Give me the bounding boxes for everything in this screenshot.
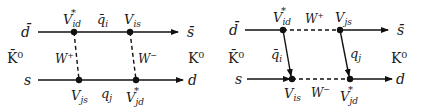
box-diagram-2: d̄ s̄ s d K̄⁰ K⁰ Vid* Vjs Vis Vjd* q̄i q… xyxy=(228,5,407,106)
quark-label: d̄ xyxy=(21,23,32,40)
propagator-label: qj xyxy=(350,46,361,63)
meson-label: K⁰ xyxy=(188,50,204,66)
quark-label: d̄ xyxy=(229,21,240,38)
ckm-label: Vjd* xyxy=(126,85,144,107)
ckm-label: Vjd* xyxy=(340,84,358,106)
vertex-dot xyxy=(71,29,77,35)
vertex-dot xyxy=(337,27,343,33)
boson-label: W+ xyxy=(55,51,74,66)
ckm-label: Vjs xyxy=(335,10,352,27)
w-plus-dashed-line xyxy=(74,32,79,80)
quark-label: s̄ xyxy=(397,22,405,38)
vertex-dot xyxy=(347,76,353,82)
ckm-label: Vid* xyxy=(273,5,291,27)
box-diagram-1: d̄ s̄ s d K̄⁰ K⁰ Vid* Vis Vjs Vjd* q̄i q… xyxy=(7,7,204,107)
ckm-label: Vid* xyxy=(63,7,81,29)
quark-label: d xyxy=(188,72,197,88)
box-diagrams-canvas: d̄ s̄ s d K̄⁰ K⁰ Vid* Vis Vjs Vjd* q̄i q… xyxy=(0,0,421,111)
propagator-label: q̄i xyxy=(97,12,108,29)
ckm-label: Vis xyxy=(284,86,301,103)
boson-label: W− xyxy=(138,51,157,66)
propagator-label: q̄i xyxy=(271,47,282,64)
w-minus-dashed-line xyxy=(130,32,136,80)
quark-label: s̄ xyxy=(187,24,195,40)
ckm-label: Vjs xyxy=(71,88,88,105)
vertex-dot xyxy=(133,77,139,83)
quark-label: s xyxy=(235,71,242,87)
quark-propagator-line xyxy=(340,30,349,76)
vertex-dot xyxy=(127,29,133,35)
quark-label: d xyxy=(396,71,405,87)
meson-label: K̄⁰ xyxy=(228,49,244,66)
vertex-dot xyxy=(76,77,82,83)
vertex-dot xyxy=(280,27,286,33)
boson-label: W− xyxy=(311,85,330,100)
antiquark-propagator-line xyxy=(283,30,291,76)
propagator-label: qj xyxy=(101,86,112,103)
meson-label: K⁰ xyxy=(391,50,407,66)
vertex-dot xyxy=(289,76,295,82)
ckm-label: Vis xyxy=(124,12,141,29)
boson-label: W+ xyxy=(305,11,324,26)
quark-label: s xyxy=(24,72,31,88)
meson-label: K̄⁰ xyxy=(7,49,23,66)
